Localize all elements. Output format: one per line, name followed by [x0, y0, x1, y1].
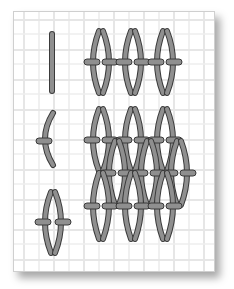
stitch-diagram-card: [13, 11, 215, 272]
stitch-diagram: [14, 12, 215, 272]
